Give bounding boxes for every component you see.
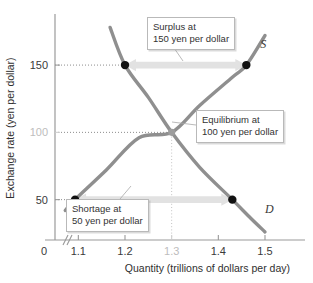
shortage-callout-line-2: 50 yen per dollar: [72, 215, 143, 227]
axis-titles: Quantity (trillions of dollars per day)E…: [4, 57, 290, 274]
equilibrium-callout: Equilibrium at100 yen per dollar: [196, 110, 284, 143]
exchange-rate-supply-demand-figure: 1.11.21.31.41.5150100500 SD Quantity (tr…: [0, 0, 313, 283]
curve-label-d: D: [264, 202, 274, 216]
origin-label: 0: [41, 245, 47, 257]
equilibrium-callout-line-1: Equilibrium at: [202, 114, 278, 126]
x-tick-label-1.2: 1.2: [117, 245, 132, 257]
equilibrium-callout-line-2: 100 yen per dollar: [202, 126, 278, 138]
marker-demand-at-50: [228, 195, 236, 203]
shortage-callout: Shortage at50 yen per dollar: [66, 199, 149, 232]
y-tick-label-100: 100: [30, 126, 48, 138]
y-tick-label-50: 50: [36, 194, 48, 206]
shortage-callout-line-1: Shortage at: [72, 203, 143, 215]
x-tick-label-1.5: 1.5: [257, 245, 272, 257]
marker-supply-at-150: [242, 61, 250, 69]
surplus-arrow: [125, 59, 246, 71]
marker-equilibrium: [168, 129, 175, 136]
curve-label-s: S: [260, 37, 266, 51]
surplus-callout: Surplus at150 yen per dollar: [147, 17, 235, 50]
surplus-callout-line-2: 150 yen per dollar: [153, 33, 229, 45]
surplus-callout-line-1: Surplus at: [153, 21, 229, 33]
x-tick-label-1.4: 1.4: [211, 245, 226, 257]
y-tick-label-150: 150: [30, 59, 48, 71]
x-axis-title: Quantity (trillions of dollars per day): [125, 262, 290, 274]
x-tick-label-1.1: 1.1: [71, 245, 86, 257]
y-axis-title: Exchange rate (yen per dollar): [4, 57, 16, 198]
x-tick-label-1.3: 1.3: [164, 245, 179, 257]
marker-demand-at-150: [121, 61, 129, 69]
